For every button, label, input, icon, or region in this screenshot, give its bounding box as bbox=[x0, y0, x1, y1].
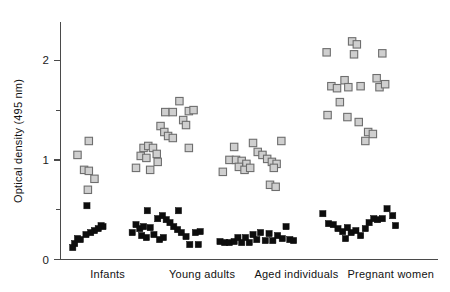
x-category-label: Infants bbox=[90, 268, 125, 280]
y-tick-label: 1 bbox=[43, 154, 49, 166]
data-point-open bbox=[85, 137, 92, 144]
data-point-open bbox=[355, 118, 362, 125]
data-point-open bbox=[143, 154, 150, 161]
data-point-open bbox=[350, 51, 357, 58]
data-point-open bbox=[270, 164, 277, 171]
data-point-open bbox=[357, 83, 364, 90]
data-point-open bbox=[169, 108, 176, 115]
data-point-filled bbox=[195, 241, 201, 247]
data-point-open bbox=[373, 75, 380, 82]
data-point-open bbox=[246, 164, 253, 171]
data-point-filled bbox=[160, 234, 166, 240]
data-point-open bbox=[379, 50, 386, 57]
data-point-filled bbox=[320, 211, 326, 217]
data-point-open bbox=[146, 166, 153, 173]
x-category-label: Young adults bbox=[169, 268, 235, 280]
data-point-filled bbox=[291, 237, 297, 243]
data-point-open bbox=[345, 83, 352, 90]
data-point-filled bbox=[254, 236, 260, 242]
data-point-open bbox=[185, 144, 192, 151]
data-point-filled bbox=[283, 224, 289, 230]
data-point-open bbox=[344, 113, 351, 120]
data-points-open-squares bbox=[74, 38, 389, 194]
data-point-filled bbox=[279, 235, 285, 241]
data-point-open bbox=[219, 168, 226, 175]
data-point-filled bbox=[358, 233, 364, 239]
data-point-open bbox=[381, 81, 388, 88]
data-point-filled bbox=[187, 241, 193, 247]
data-point-open bbox=[323, 49, 330, 56]
data-point-open bbox=[324, 111, 331, 118]
data-point-filled bbox=[143, 234, 149, 240]
data-point-filled bbox=[83, 232, 89, 238]
data-point-open bbox=[369, 130, 376, 137]
data-point-open bbox=[91, 175, 98, 182]
data-point-open bbox=[249, 139, 256, 146]
data-point-filled bbox=[84, 203, 90, 209]
data-point-filled bbox=[342, 235, 348, 241]
data-point-filled bbox=[262, 237, 268, 243]
data-point-filled bbox=[246, 239, 252, 245]
data-point-open bbox=[182, 121, 189, 128]
data-point-open bbox=[230, 143, 237, 150]
x-category-label: Pregnant women bbox=[347, 268, 434, 280]
data-point-filled bbox=[147, 225, 153, 231]
data-point-open bbox=[85, 167, 92, 174]
data-point-open bbox=[362, 137, 369, 144]
plot-canvas: 012 InfantsYoung adultsAged individualsP… bbox=[0, 0, 450, 292]
data-point-filled bbox=[379, 216, 385, 222]
data-point-filled bbox=[266, 231, 272, 237]
data-point-open bbox=[341, 77, 348, 84]
data-point-open bbox=[74, 151, 81, 158]
data-point-filled bbox=[70, 244, 76, 250]
data-point-open bbox=[169, 134, 176, 141]
data-point-open bbox=[353, 41, 360, 48]
data-points-filled-squares bbox=[70, 203, 399, 251]
y-axis-group: 012 bbox=[43, 22, 61, 266]
data-point-filled bbox=[175, 208, 181, 214]
scatter-plot-figure: 012 InfantsYoung adultsAged individualsP… bbox=[0, 0, 450, 292]
data-point-filled bbox=[144, 208, 150, 214]
data-point-filled bbox=[257, 230, 263, 236]
data-point-open bbox=[333, 84, 340, 91]
data-point-open bbox=[190, 106, 197, 113]
data-point-filled bbox=[384, 206, 390, 212]
data-point-open bbox=[272, 183, 279, 190]
data-point-filled bbox=[140, 224, 146, 230]
y-tick-label: 2 bbox=[43, 54, 49, 66]
y-tick-label: 0 bbox=[43, 254, 49, 266]
data-point-open bbox=[278, 137, 285, 144]
data-point-open bbox=[132, 164, 139, 171]
data-point-open bbox=[336, 98, 343, 105]
data-point-filled bbox=[390, 213, 396, 219]
data-point-filled bbox=[197, 229, 203, 235]
x-category-labels: InfantsYoung adultsAged individualsPregn… bbox=[90, 268, 434, 280]
data-point-filled bbox=[392, 223, 398, 229]
x-category-label: Aged individuals bbox=[254, 268, 338, 280]
y-axis-title: Optical density (495 nm) bbox=[12, 79, 24, 203]
data-point-open bbox=[176, 97, 183, 104]
data-point-open bbox=[162, 108, 169, 115]
x-axis-group: InfantsYoung adultsAged individualsPregn… bbox=[61, 260, 439, 281]
data-point-open bbox=[153, 150, 160, 157]
y-tick-labels: 012 bbox=[43, 54, 49, 265]
data-point-filled bbox=[129, 230, 135, 236]
y-tick-marks bbox=[54, 60, 61, 259]
data-point-open bbox=[84, 186, 91, 193]
data-point-filled bbox=[183, 233, 189, 239]
data-point-filled bbox=[362, 226, 368, 232]
data-point-open bbox=[154, 158, 161, 165]
data-point-filled bbox=[151, 232, 157, 238]
